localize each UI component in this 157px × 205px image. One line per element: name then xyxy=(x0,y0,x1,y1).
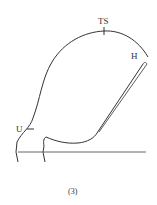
left-stem xyxy=(16,142,18,162)
label-u: U xyxy=(16,124,23,134)
blade-element xyxy=(99,63,147,133)
diagram-canvas: TS H U (3) xyxy=(0,0,157,205)
inner-profile-curve xyxy=(43,64,143,162)
caption: (3) xyxy=(68,187,78,196)
label-h: H xyxy=(131,51,138,61)
label-ts: TS xyxy=(98,16,109,26)
